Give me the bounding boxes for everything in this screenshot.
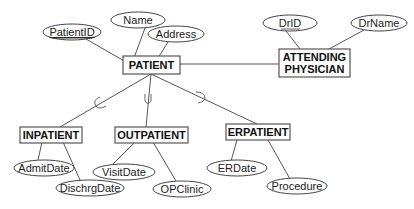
attribute-label: VisitDate [102, 166, 146, 178]
attribute-name: Name [111, 12, 165, 28]
entity-label: PATIENT [129, 59, 175, 71]
entity-label: ERPATIENT [228, 126, 289, 138]
attribute-drname: DrName [351, 15, 407, 31]
attribute-label: DischrgDate [60, 182, 121, 194]
line-patient-inpatient [60, 74, 151, 127]
attribute-drid: DrID [263, 15, 317, 31]
entity-erpatient: ERPATIENT [226, 124, 290, 140]
line-drid-physician [286, 31, 300, 49]
attribute-admitdate: AdmitDate [14, 160, 74, 176]
entity-label-line2: PHYSICIAN [285, 63, 345, 75]
line-inpatient-admitdate [38, 142, 42, 160]
attribute-dischrgdate: DischrgDate [56, 180, 124, 196]
line-patient-erpatient [151, 74, 257, 124]
line-erpatient-procedure [268, 140, 290, 179]
er-diagram: PatientID Name Address DrID DrName Admit… [0, 0, 414, 209]
attribute-label: DrName [359, 17, 400, 29]
attribute-label: AdmitDate [18, 162, 69, 174]
entity-outpatient: OUTPATIENT [115, 127, 188, 143]
line-name-patient [134, 28, 145, 58]
entity-attending-physician: ATTENDING PHYSICIAN [279, 49, 350, 77]
entity-label: OUTPATIENT [117, 129, 186, 141]
entity-label-line1: ATTENDING [283, 51, 346, 63]
attribute-label: DrID [279, 17, 302, 29]
attribute-erdate: ERDate [207, 160, 267, 176]
attribute-address: Address [148, 26, 204, 42]
line-inpatient-dischrgdate [63, 142, 80, 180]
attribute-label: PatientID [49, 26, 94, 38]
attribute-procedure: Procedure [267, 178, 327, 194]
line-erpatient-erdate [231, 140, 237, 161]
subset-symbols [95, 92, 205, 108]
attribute-patientid: PatientID [43, 24, 101, 40]
attribute-opclinic: OPClinic [153, 181, 211, 197]
entity-inpatient: INPATIENT [20, 127, 82, 143]
line-patient-outpatient [146, 74, 151, 127]
attribute-label: ERDate [218, 162, 257, 174]
line-outpatient-visitdate [112, 142, 135, 165]
subset-icon-inpatient [95, 97, 106, 108]
attribute-label: Procedure [272, 180, 323, 192]
line-patientid-patient [86, 39, 126, 62]
attribute-visitdate: VisitDate [93, 164, 155, 180]
line-outpatient-opclinic [153, 142, 176, 181]
attribute-label: Address [156, 28, 197, 40]
entity-patient: PATIENT [123, 56, 180, 74]
line-drname-physician [329, 30, 364, 49]
entity-label: INPATIENT [23, 129, 80, 141]
attribute-label: OPClinic [161, 183, 204, 195]
attribute-label: Name [123, 14, 152, 26]
